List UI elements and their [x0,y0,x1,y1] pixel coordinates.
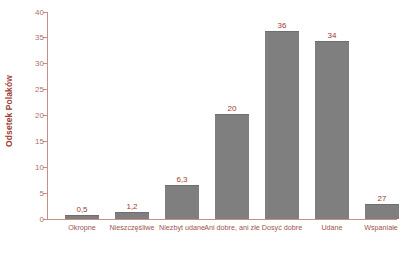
y-axis-line [47,12,48,220]
bar-value-label: 34 [328,31,337,40]
x-label-ani-dobre-ani-zle: Ani dobre, ani złe [204,223,260,233]
y-tick-label: 40 [35,8,44,17]
y-tick-label: 0 [40,215,44,224]
bar-value-label: 20 [228,104,237,113]
bar-value-label: 0,5 [76,205,87,214]
y-tick-label: 35 [35,33,44,42]
bar-value-label: 6,3 [176,175,187,184]
y-axis-title-text: Odsetek Polaków [4,75,14,147]
bar-slot: 27 [359,12,404,219]
bar-chart-figure: Odsetek Polaków 0 5 10 15 20 25 [0,0,404,257]
bar-slot: 0,5 [59,12,105,219]
x-axis-line [43,219,397,220]
bar-slot: 34 [309,12,355,219]
bar-ani-dobre-ani-zle[interactable]: 20 [215,114,249,219]
bar-value-label: 1,2 [126,202,137,211]
x-label-wspaniale: Wspaniałe [353,223,404,233]
x-label-niezbyt-udane: Niezbyt udane [154,223,210,233]
bar-okropne[interactable]: 0,5 [65,215,99,219]
bar-value-label: 36 [278,21,287,30]
y-tick-label: 30 [35,59,44,68]
y-tick-label: 5 [40,189,44,198]
y-tick-label: 20 [35,111,44,120]
plot-area: 0 5 10 15 20 25 30 35 [47,12,397,219]
bar-dosyc-dobre[interactable]: 36 [265,31,299,219]
y-tick-label: 10 [35,163,44,172]
y-tick-label: 25 [35,85,44,94]
x-label-udane: Udane [305,223,359,233]
bar-slot: 20 [209,12,255,219]
bar-niezbyt-udane[interactable]: 6,3 [165,185,199,219]
bar-udane[interactable]: 34 [315,41,349,219]
bar-slot: 6,3 [159,12,205,219]
y-tick-label: 15 [35,137,44,146]
x-label-dosyc-dobre: Dosyć dobre [255,223,309,233]
bar-nieszczesliwe[interactable]: 1,2 [115,212,149,219]
bar-value-label: 27 [378,194,387,203]
bar-slot: 36 [259,12,305,219]
y-axis-title: Odsetek Polaków [0,0,18,222]
bar-wspaniale[interactable]: 27 [365,204,399,219]
bar-slot: 1,2 [109,12,155,219]
